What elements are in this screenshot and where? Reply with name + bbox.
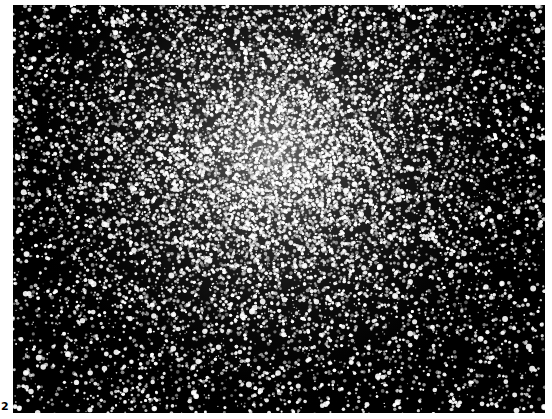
star-cluster-photograph [13,5,545,413]
star-field-canvas [13,5,545,413]
figure-label: 2 [1,401,9,413]
